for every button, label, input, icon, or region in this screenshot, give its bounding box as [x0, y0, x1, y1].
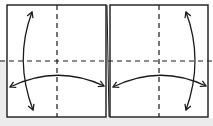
origami-diagram: [0, 0, 213, 126]
